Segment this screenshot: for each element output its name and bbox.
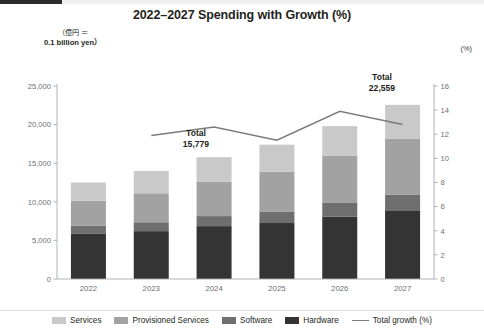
bar-segment (71, 234, 106, 279)
x-axis: 202220232024202520262027 (57, 279, 434, 293)
y-right-tick-label: 12 (441, 130, 449, 139)
y-left-tick-label: 5,000 (32, 236, 51, 245)
bar-segment (259, 211, 294, 223)
bar-segment (197, 226, 232, 279)
bar-segment (259, 223, 294, 279)
legend-item[interactable]: Total growth (%) (352, 316, 432, 325)
bar-segment (259, 172, 294, 212)
legend-label: Hardware (303, 316, 339, 325)
bar-segment (71, 226, 106, 234)
bar-segment (71, 183, 106, 201)
y-right-tick-label: 2 (441, 251, 445, 260)
y-left-tick-label: 25,000 (28, 82, 51, 91)
y-right-tick-label: 6 (441, 202, 445, 211)
x-tick-label: 2023 (143, 284, 160, 293)
y-axis-right: 0246810121416 (434, 82, 449, 284)
legend-swatch (285, 317, 299, 324)
bar-segment (134, 222, 169, 231)
annotation-total-2027: Total 22,559 (352, 72, 412, 93)
bar-segment (134, 193, 169, 222)
legend-line-marker (352, 320, 369, 321)
legend-label: Services (70, 316, 101, 325)
legend-swatch (114, 317, 128, 324)
legend-swatch (52, 317, 66, 324)
y-axis-left: 05,00010,00015,00020,00025,000 (28, 82, 57, 284)
legend-swatch (222, 317, 236, 324)
bar-segment (259, 145, 294, 172)
bar-segment (134, 231, 169, 279)
bar-stack-group (71, 105, 420, 279)
chart-legend: ServicesProvisioned ServicesSoftwareHard… (0, 310, 484, 325)
y-right-tick-label: 14 (441, 106, 449, 115)
annotation-label: Total (166, 128, 226, 139)
y-right-tick-label: 4 (441, 227, 445, 236)
y-left-tick-label: 10,000 (28, 198, 51, 207)
x-tick-label: 2024 (205, 284, 223, 293)
bar-segment (322, 216, 357, 279)
legend-item[interactable]: Hardware (285, 316, 339, 325)
bar-segment (322, 203, 357, 217)
legend-label: Total growth (%) (373, 316, 432, 325)
bar-segment (322, 126, 357, 156)
bar-segment (322, 156, 357, 203)
bar-segment (197, 157, 232, 182)
legend-label: Provisioned Services (132, 316, 208, 325)
x-tick-label: 2022 (80, 284, 97, 293)
legend-item[interactable]: Services (52, 316, 101, 325)
y-left-tick-label: 0 (47, 275, 51, 284)
legend-item[interactable]: Software (222, 316, 272, 325)
legend-label: Software (240, 316, 272, 325)
bar-segment (197, 216, 232, 226)
bar-segment (385, 139, 420, 195)
annotation-value: 22,559 (352, 83, 412, 94)
bar-segment (71, 201, 106, 226)
annotation-value: 15,779 (166, 139, 226, 150)
bar-segment (134, 171, 169, 193)
annotation-total-2024: Total 15,779 (166, 128, 226, 149)
x-tick-label: 2026 (331, 284, 348, 293)
y-right-tick-label: 0 (441, 275, 445, 284)
legend-item[interactable]: Provisioned Services (114, 316, 208, 325)
chart-page: 2022–2027 Spending with Growth (%) （億円 ＝… (0, 0, 484, 329)
x-tick-label: 2027 (394, 284, 411, 293)
chart-plot-area: 05,00010,00015,00020,00025,000 024681012… (0, 0, 484, 329)
y-left-tick-label: 15,000 (28, 159, 51, 168)
bar-segment (197, 182, 232, 216)
y-right-tick-label: 8 (441, 178, 445, 187)
annotation-label: Total (352, 72, 412, 83)
x-tick-label: 2025 (268, 284, 286, 293)
bar-segment (385, 195, 420, 210)
y-left-tick-label: 20,000 (28, 120, 51, 129)
bar-segment (385, 210, 420, 279)
y-right-tick-label: 10 (441, 154, 449, 163)
y-right-tick-label: 16 (441, 82, 449, 91)
